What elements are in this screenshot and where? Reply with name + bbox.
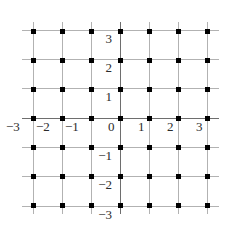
lattice-point xyxy=(205,87,209,91)
coordinate-grid-canvas xyxy=(0,0,241,231)
y-axis-tick-label-pos1: 1 xyxy=(88,90,112,103)
lattice-point xyxy=(176,203,180,207)
lattice-point xyxy=(147,58,151,62)
lattice-point xyxy=(118,87,122,91)
lattice-point xyxy=(205,116,209,120)
x-axis-tick-label-pos2: 2 xyxy=(167,120,174,133)
lattice-point xyxy=(205,203,209,207)
lattice-point xyxy=(60,29,64,33)
lattice-point xyxy=(60,145,64,149)
y-axis-tick-label-neg2: −2 xyxy=(80,178,112,191)
lattice-point xyxy=(176,58,180,62)
x-axis-tick-label-neg2: −2 xyxy=(36,120,50,133)
lattice-point xyxy=(118,116,122,120)
y-axis-tick-label-neg1: −1 xyxy=(80,149,112,162)
lattice-point xyxy=(176,145,180,149)
lattice-point xyxy=(147,203,151,207)
coordinate-grid-figure: −3 −2 −1 0 1 2 3 3 2 1 −1 −2 −3 xyxy=(0,0,241,231)
lattice-point xyxy=(31,145,35,149)
y-axis-tick-label-pos3: 3 xyxy=(88,32,112,45)
lattice-point xyxy=(118,145,122,149)
lattice-point xyxy=(31,58,35,62)
lattice-point xyxy=(60,87,64,91)
lattice-point xyxy=(205,29,209,33)
lattice-point xyxy=(147,87,151,91)
lattice-point xyxy=(60,58,64,62)
x-axis-tick-label-zero: 0 xyxy=(108,120,115,133)
lattice-point xyxy=(176,29,180,33)
lattice-point xyxy=(205,145,209,149)
lattice-point xyxy=(147,29,151,33)
x-axis-tick-label-neg3: −3 xyxy=(6,120,20,133)
lattice-point xyxy=(176,87,180,91)
x-axis-tick-label-pos3: 3 xyxy=(196,120,203,133)
lattice-point xyxy=(205,174,209,178)
lattice-point xyxy=(147,116,151,120)
lattice-point xyxy=(118,29,122,33)
lattice-point xyxy=(147,174,151,178)
lattice-point xyxy=(147,145,151,149)
lattice-point xyxy=(118,203,122,207)
lattice-point xyxy=(31,87,35,91)
lattice-point xyxy=(205,58,209,62)
lattice-point xyxy=(31,203,35,207)
x-axis-tick-label-neg1: −1 xyxy=(65,120,79,133)
lattice-point xyxy=(176,116,180,120)
x-axis-tick-label-pos1: 1 xyxy=(138,120,145,133)
lattice-point xyxy=(60,203,64,207)
lattice-point xyxy=(60,174,64,178)
lattice-point xyxy=(118,58,122,62)
lattice-point xyxy=(176,174,180,178)
lattice-point xyxy=(118,174,122,178)
lattice-point xyxy=(31,174,35,178)
y-axis-tick-label-pos2: 2 xyxy=(88,61,112,74)
y-axis-tick-label-neg3: −3 xyxy=(80,208,112,221)
lattice-point xyxy=(31,29,35,33)
lattice-point xyxy=(89,116,93,120)
